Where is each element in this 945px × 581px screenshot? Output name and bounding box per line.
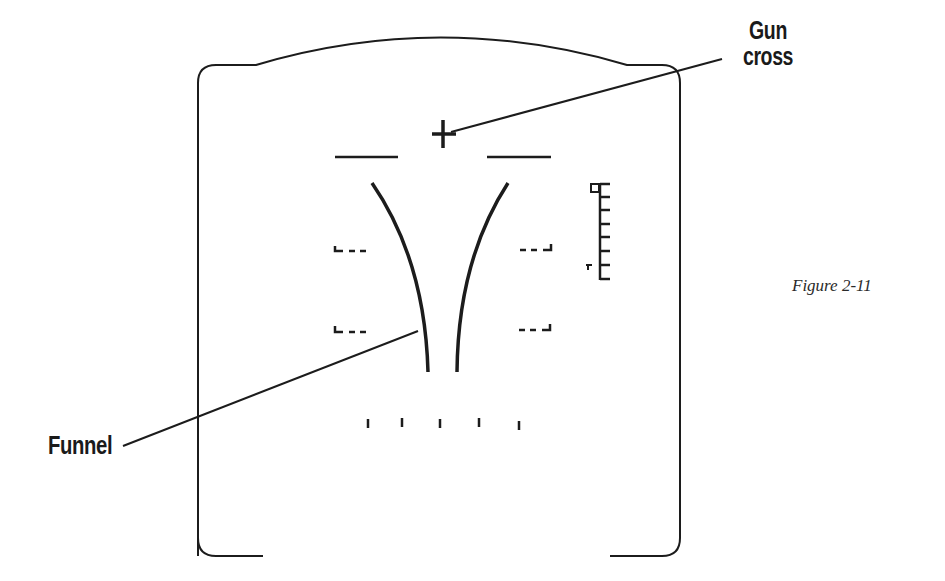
hud-frame (198, 38, 680, 557)
funnel-leader-line (123, 331, 418, 446)
gun-cross-label-line2: cross (737, 43, 799, 69)
bracket-mark-right-lower (519, 324, 550, 330)
funnel-right-line (457, 183, 508, 372)
bottom-ticks (368, 418, 519, 430)
gun-cross-label-line1: Gun (737, 17, 799, 43)
funnel-left-line (372, 183, 428, 372)
figure-caption: Figure 2-11 (792, 276, 872, 296)
gun-cross-icon (432, 120, 456, 148)
bracket-mark-right-upper (520, 244, 551, 250)
bracket-mark-left-upper (335, 246, 366, 251)
funnel-label: Funnel (48, 432, 112, 459)
gun-cross-label: Gun cross (737, 17, 799, 70)
range-scale-icon (586, 183, 610, 280)
bracket-mark-left-lower (335, 326, 366, 332)
gun-cross-leader-line (451, 59, 722, 132)
hud-frame-bottom-left (198, 538, 263, 556)
